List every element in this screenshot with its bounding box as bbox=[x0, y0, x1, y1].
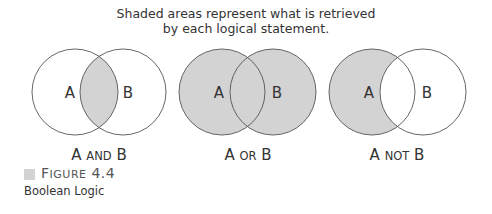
venn-not: A B bbox=[329, 49, 466, 135]
set-b-label: B bbox=[123, 84, 133, 102]
figure-number: FIGURE 4.4 bbox=[41, 165, 115, 181]
set-a-label: A bbox=[214, 84, 225, 102]
set-a-label: A bbox=[364, 84, 375, 102]
set-b-label: B bbox=[272, 84, 282, 102]
label-not: A NOT B bbox=[327, 146, 467, 164]
figure-title: Boolean Logic bbox=[24, 184, 104, 198]
venn-and: A B bbox=[32, 49, 166, 135]
set-b-label: B bbox=[422, 84, 432, 102]
venn-diagrams: A B A B A B bbox=[0, 0, 492, 214]
label-or: A OR B bbox=[178, 146, 318, 164]
set-a-label: A bbox=[65, 84, 76, 102]
venn-or: A B bbox=[179, 49, 316, 135]
label-and: A AND B bbox=[29, 146, 169, 164]
figure-marker-icon bbox=[24, 169, 35, 180]
